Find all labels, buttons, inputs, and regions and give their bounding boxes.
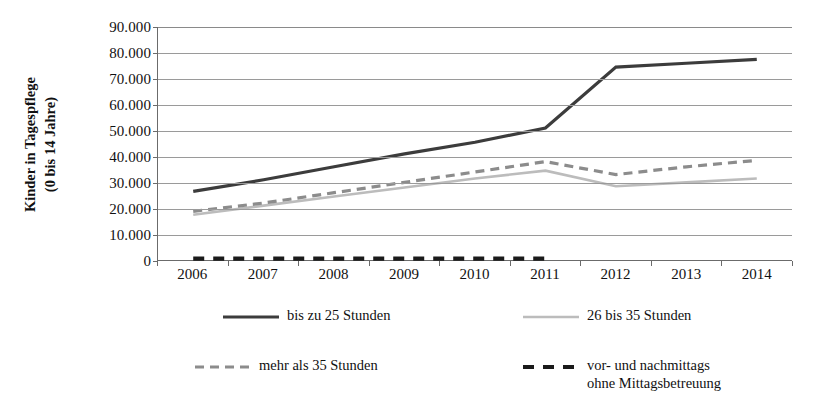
y-axis-tick-label: 30.000 [85, 176, 151, 191]
legend-swatch-3 [195, 360, 251, 374]
gridline [158, 183, 792, 184]
y-axis-tick-mark [153, 27, 158, 28]
y-axis-tick-label: 10.000 [85, 228, 151, 243]
x-axis-tick-label: 2011 [530, 266, 559, 283]
gridline [158, 131, 792, 132]
y-axis-tick-label: 50.000 [85, 124, 151, 139]
x-axis-tick-label: 2010 [460, 266, 490, 283]
y-axis-tick-label: 40.000 [85, 150, 151, 165]
x-axis-tick-label: 2012 [601, 266, 631, 283]
x-axis-tick-mark [792, 261, 793, 266]
y-axis-tick-mark [153, 105, 158, 106]
legend-swatch-1 [223, 310, 279, 324]
x-axis-tick-labels: 200620072008200920102011201220132014 [157, 266, 792, 290]
gridline [158, 79, 792, 80]
y-axis-tick-mark [153, 157, 158, 158]
y-axis-title-line2: (0 bis 14 Jahre) [42, 97, 58, 192]
gridline [158, 235, 792, 236]
legend-item[interactable]: mehr als 35 Stunden [195, 356, 378, 374]
y-axis-tick-label: 70.000 [85, 72, 151, 87]
gridline [158, 53, 792, 54]
y-axis-title: Kinder in Tagespflege (0 bis 14 Jahre) [18, 20, 64, 270]
y-axis-tick-mark [153, 235, 158, 236]
legend-label: mehr als 35 Stunden [259, 356, 378, 374]
x-axis-tick-label: 2006 [177, 266, 207, 283]
y-axis-tick-labels: 90.00080.00070.00060.00050.00040.00030.0… [85, 27, 151, 261]
line-chart: Kinder in Tagespflege (0 bis 14 Jahre) 9… [0, 0, 814, 408]
y-axis-tick-mark [153, 183, 158, 184]
legend-swatch-2 [523, 310, 579, 324]
x-axis-tick-label: 2007 [248, 266, 278, 283]
x-axis-tick-label: 2014 [742, 266, 772, 283]
gridline [158, 209, 792, 210]
legend-label: 26 bis 35 Stunden [587, 306, 691, 324]
legend-item[interactable]: bis zu 25 Stunden [223, 306, 391, 324]
chart-legend: bis zu 25 Stunden26 bis 35 Stundenmehr a… [157, 300, 797, 400]
y-axis-title-line1: Kinder in Tagespflege [22, 77, 38, 212]
x-axis-tick-label: 2008 [318, 266, 348, 283]
x-axis-tick-label: 2009 [389, 266, 419, 283]
legend-item[interactable]: vor- und nachmittags ohne Mittagsbetreuu… [523, 356, 721, 392]
y-axis-tick-mark [153, 131, 158, 132]
y-axis-tick-mark [153, 53, 158, 54]
gridline [158, 157, 792, 158]
legend-item[interactable]: 26 bis 35 Stunden [523, 306, 691, 324]
y-axis-tick-label: 20.000 [85, 202, 151, 217]
legend-swatch-4 [523, 360, 579, 374]
x-axis-tick-label: 2013 [671, 266, 701, 283]
legend-label: vor- und nachmittags ohne Mittagsbetreuu… [587, 356, 721, 392]
series-lines [158, 27, 792, 260]
y-axis-tick-mark [153, 209, 158, 210]
y-axis-tick-label: 60.000 [85, 98, 151, 113]
y-axis-tick-mark [153, 79, 158, 80]
y-axis-tick-label: 80.000 [85, 46, 151, 61]
gridline [158, 27, 792, 28]
y-axis-tick-label: 0 [85, 254, 151, 269]
gridline [158, 105, 792, 106]
plot-area [157, 27, 792, 261]
y-axis-tick-label: 90.000 [85, 20, 151, 35]
legend-label: bis zu 25 Stunden [287, 306, 391, 324]
